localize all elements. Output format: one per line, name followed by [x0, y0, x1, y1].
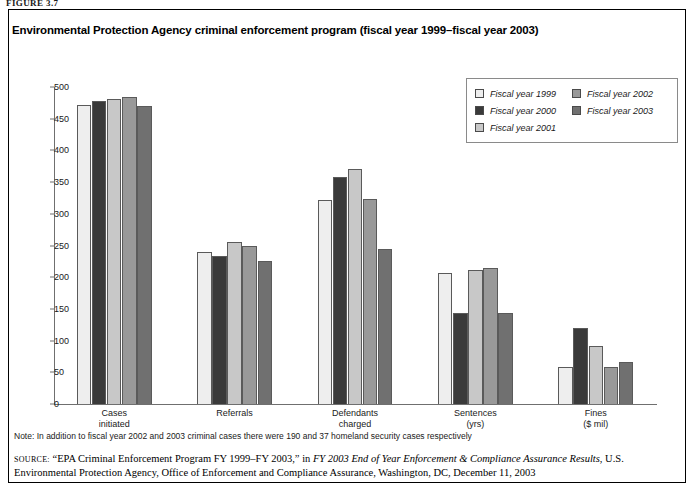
y-axis-tick-mark — [50, 118, 54, 119]
x-axis-label-line: Defendants — [295, 408, 415, 419]
y-axis-tick-label: 200 — [54, 272, 61, 282]
chart-bar — [318, 200, 333, 404]
chart-bar — [619, 362, 634, 404]
y-axis-tick-mark — [50, 245, 54, 246]
y-axis-tick-label: 100 — [54, 336, 61, 346]
chart-bar — [212, 256, 227, 404]
chart-bar — [483, 268, 498, 404]
bar-group — [77, 87, 152, 404]
chart-bar — [348, 169, 363, 404]
legend-item: Fiscal year 2003 — [572, 102, 669, 119]
y-axis-tick-mark — [50, 213, 54, 214]
x-axis-label-line: charged — [295, 419, 415, 430]
chart-bar — [589, 346, 604, 404]
chart-bar — [604, 367, 619, 404]
legend-label: Fiscal year 2001 — [490, 123, 556, 133]
x-axis-label-line: (yrs) — [415, 419, 535, 430]
legend-swatch-icon — [475, 123, 484, 132]
legend-swatch-icon — [475, 89, 484, 98]
chart-bar — [77, 105, 92, 404]
chart-bar — [363, 199, 378, 404]
legend-item: Fiscal year 2002 — [572, 85, 669, 102]
chart-bar — [558, 367, 573, 404]
chart-bar — [468, 270, 483, 404]
legend-label: Fiscal year 2003 — [587, 106, 653, 116]
legend-column-left: Fiscal year 1999Fiscal year 2000Fiscal y… — [475, 85, 572, 136]
legend-swatch-icon — [572, 89, 581, 98]
chart-bar — [438, 273, 453, 404]
chart-source: SOURCE: “EPA Criminal Enforcement Progra… — [14, 452, 674, 479]
chart-bar — [227, 242, 242, 404]
legend-swatch-icon — [475, 106, 484, 115]
y-axis-tick-mark — [50, 372, 54, 373]
chart-bar — [92, 101, 107, 404]
chart-bar — [378, 249, 393, 404]
figure-label: FIGURE 3.7 — [6, 0, 59, 8]
bar-group — [197, 87, 272, 404]
chart-legend: Fiscal year 1999Fiscal year 2000Fiscal y… — [466, 78, 678, 143]
y-axis-tick-label: 250 — [54, 241, 61, 251]
chart-bar — [137, 106, 152, 404]
legend-item: Fiscal year 2001 — [475, 119, 572, 136]
legend-item: Fiscal year 1999 — [475, 85, 572, 102]
x-axis-category-label: Defendantscharged — [295, 408, 415, 430]
x-axis-category-label: Referrals — [174, 408, 294, 419]
chart-bar — [333, 177, 348, 404]
legend-label: Fiscal year 2002 — [587, 89, 653, 99]
chart-bar — [573, 328, 588, 404]
x-axis-category-label: Fines($ mil) — [536, 408, 656, 430]
x-axis-label-line: initiated — [54, 419, 174, 430]
chart-bar — [242, 246, 257, 404]
chart-bar — [258, 261, 273, 404]
y-axis-tick-mark — [50, 182, 54, 183]
chart-bar — [122, 97, 137, 404]
x-axis-label-line: Referrals — [174, 408, 294, 419]
legend-item: Fiscal year 2000 — [475, 102, 572, 119]
y-axis-tick-label: 450 — [54, 114, 61, 124]
source-label: SOURCE: — [14, 455, 50, 464]
legend-column-right: Fiscal year 2002Fiscal year 2003 — [572, 85, 669, 136]
chart-note: Note: In addition to fiscal year 2002 an… — [14, 431, 472, 441]
chart-title: Environmental Protection Agency criminal… — [12, 24, 539, 36]
x-axis-category-label: Casesinitiated — [54, 408, 174, 430]
y-axis-tick-label: 50 — [54, 367, 61, 377]
legend-label: Fiscal year 1999 — [490, 89, 556, 99]
y-axis-tick-mark — [50, 404, 54, 405]
x-axis-label-line: Cases — [54, 408, 174, 419]
y-axis-tick-mark — [50, 87, 54, 88]
legend-swatch-icon — [572, 106, 581, 115]
x-axis-label-line: ($ mil) — [536, 419, 656, 430]
y-axis-tick-mark — [50, 340, 54, 341]
chart-bar — [107, 99, 122, 404]
y-axis-tick-mark — [50, 150, 54, 151]
y-axis-tick-label: 350 — [54, 177, 61, 187]
source-part1: “EPA Criminal Enforcement Program FY 199… — [50, 453, 313, 464]
x-axis-label-line: Fines — [536, 408, 656, 419]
x-axis-label-line: Sentences — [415, 408, 535, 419]
chart-bar — [453, 313, 468, 404]
legend-label: Fiscal year 2000 — [490, 106, 556, 116]
y-axis-tick-mark — [50, 308, 54, 309]
y-axis-tick-label: 150 — [54, 304, 61, 314]
y-axis-tick-label: 300 — [54, 209, 61, 219]
source-italic-title: FY 2003 End of Year Enforcement & Compli… — [313, 453, 600, 464]
bar-group — [318, 87, 393, 404]
x-axis-line — [54, 404, 657, 405]
y-axis-tick-label: 500 — [54, 82, 61, 92]
chart-bar — [498, 313, 513, 404]
y-axis-tick-mark — [50, 277, 54, 278]
chart-bar — [197, 252, 212, 404]
y-axis-tick-label: 400 — [54, 145, 61, 155]
x-axis-category-label: Sentences(yrs) — [415, 408, 535, 430]
